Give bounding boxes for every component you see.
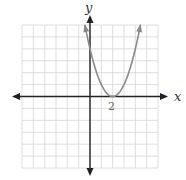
y-axis-up-arrow-icon: [87, 15, 94, 23]
y-axis-label: y: [84, 0, 93, 15]
parabola-graph: x y 2: [0, 0, 186, 180]
x-tick-label-2: 2: [108, 100, 115, 113]
x-axis-left-arrow-icon: [12, 93, 20, 100]
x-axis-label: x: [174, 89, 182, 104]
x-axis-right-arrow-icon: [160, 93, 168, 100]
axes: [12, 15, 168, 176]
y-axis-down-arrow-icon: [87, 168, 94, 176]
